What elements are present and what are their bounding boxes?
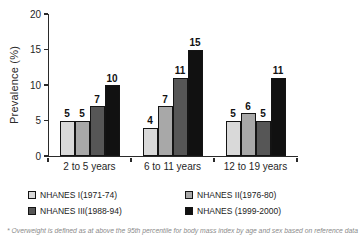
legend-swatch-nhanes-i xyxy=(28,191,36,199)
overweight-prevalence-chart: Prevalence (%) NHANES I(1971-74) NHANES … xyxy=(0,0,361,245)
bar-nhanes-1999-2000-6-to-11-years xyxy=(188,50,203,157)
bar-nhanes-1999-2000-12-to-19-years xyxy=(271,78,286,156)
x-category-label-12-to-19-years: 12 to 19 years xyxy=(214,161,297,172)
bar-nhanes-i-1971-74-6-to-11-years xyxy=(143,128,158,156)
legend-label-nhanes-ii: NHANES II(1976-80) xyxy=(197,190,276,200)
legend-swatch-nhanes-iii xyxy=(28,207,36,215)
bar-nhanes-1999-2000-2-to-5-years xyxy=(105,85,120,156)
bar-nhanes-iii-1988-94-6-to-11-years xyxy=(173,78,188,156)
bar-nhanes-iii-1988-94-2-to-5-years xyxy=(90,106,105,156)
bar-nhanes-i-1971-74-12-to-19-years xyxy=(226,121,241,157)
legend-label-nhanes-1999-2000: NHANES (1999-2000) xyxy=(197,206,281,216)
bar-nhanes-i-1971-74-2-to-5-years xyxy=(60,121,75,157)
bar-nhanes-iii-1988-94-12-to-19-years xyxy=(256,121,271,157)
bar-value-label-nhanes-1999-2000-12-to-19-years: 11 xyxy=(265,65,292,76)
legend-item-nhanes-1999-2000: NHANES (1999-2000) xyxy=(185,206,281,216)
legend-item-nhanes-i: NHANES I(1971-74) xyxy=(28,190,185,200)
y-tick-label-20: 20 xyxy=(11,9,41,20)
y-tick-mark-15 xyxy=(44,49,48,51)
bar-value-label-nhanes-1999-2000-2-to-5-years: 10 xyxy=(99,73,126,84)
legend-swatch-nhanes-ii xyxy=(185,191,193,199)
x-category-label-2-to-5-years: 2 to 5 years xyxy=(48,161,131,172)
y-tick-label-10: 10 xyxy=(11,80,41,91)
legend-label-nhanes-i: NHANES I(1971-74) xyxy=(40,190,117,200)
footnote: * Overweight is defined as at above the … xyxy=(0,227,358,234)
y-tick-label-15: 15 xyxy=(11,44,41,55)
x-category-label-6-to-11-years: 6 to 11 years xyxy=(131,161,214,172)
y-tick-label-0: 0 xyxy=(11,151,41,162)
legend-label-nhanes-iii: NHANES III(1988-94) xyxy=(40,206,122,216)
bar-nhanes-ii-1976-80-6-to-11-years xyxy=(158,106,173,156)
y-tick-mark-5 xyxy=(44,120,48,122)
legend: NHANES I(1971-74) NHANES II(1976-80) NHA… xyxy=(28,190,281,216)
bar-nhanes-ii-1976-80-2-to-5-years xyxy=(75,121,90,157)
y-tick-mark-10 xyxy=(44,84,48,86)
y-tick-mark-20 xyxy=(44,13,48,15)
bar-value-label-nhanes-1999-2000-6-to-11-years: 15 xyxy=(182,37,209,48)
legend-item-nhanes-iii: NHANES III(1988-94) xyxy=(28,206,185,216)
y-tick-label-5: 5 xyxy=(11,115,41,126)
legend-item-nhanes-ii: NHANES II(1976-80) xyxy=(185,190,281,200)
bar-nhanes-ii-1976-80-12-to-19-years xyxy=(241,113,256,156)
legend-swatch-nhanes-1999-2000 xyxy=(185,207,193,215)
